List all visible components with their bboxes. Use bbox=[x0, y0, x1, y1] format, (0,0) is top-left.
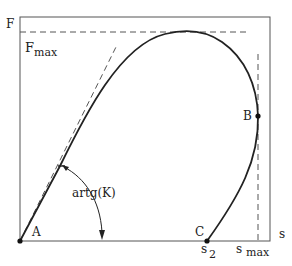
f-max-label: F bbox=[25, 40, 34, 55]
x-axis-label: s bbox=[279, 227, 285, 241]
tangent-dashed-line bbox=[20, 47, 116, 241]
point-b-label: B bbox=[243, 109, 252, 123]
point-c-label: C bbox=[195, 225, 204, 239]
point-a-marker bbox=[17, 238, 22, 243]
arc-arrowhead-icon bbox=[99, 230, 105, 240]
s2-subscript: 2 bbox=[209, 248, 216, 261]
force-displacement-diagram: F s F max A B C s 2 s max artg(K) bbox=[0, 0, 292, 266]
s-max-subscript: max bbox=[246, 246, 270, 259]
point-a-label: A bbox=[31, 225, 41, 239]
y-axis-label: F bbox=[6, 17, 14, 31]
arc-arrowtail-icon bbox=[62, 165, 69, 171]
f-max-subscript: max bbox=[34, 46, 58, 59]
s-max-label: s bbox=[236, 242, 242, 256]
force-curve bbox=[20, 31, 258, 241]
point-b-marker bbox=[255, 113, 260, 118]
s2-label: s bbox=[201, 242, 207, 256]
angle-label: artg(K) bbox=[72, 186, 116, 200]
